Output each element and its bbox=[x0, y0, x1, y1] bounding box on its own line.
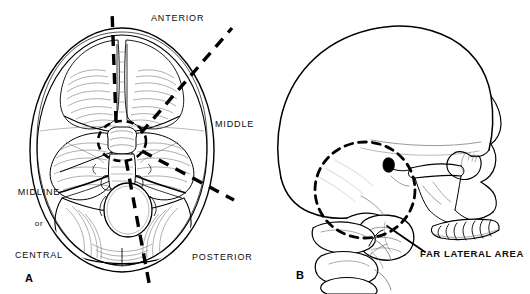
label-middle: MIDDLE bbox=[215, 119, 254, 130]
label-midline-line3: CENTRAL bbox=[7, 250, 71, 261]
dashed-line-anterior-midline bbox=[112, 10, 116, 122]
external-auditory-meatus bbox=[383, 158, 394, 172]
dashed-line-middle-posterior bbox=[142, 151, 234, 200]
label-far-lateral-area: FAR LATERAL AREA bbox=[420, 249, 524, 260]
label-midline-or-central: MIDLINE or CENTRAL bbox=[7, 166, 71, 282]
label-midline-line2: or bbox=[7, 219, 71, 230]
label-midline-line1: MIDLINE bbox=[7, 187, 71, 198]
anatomical-figure: ANTERIOR MIDDLE POSTERIOR MIDLINE or CEN… bbox=[0, 0, 530, 294]
panel-letter-b: B bbox=[296, 269, 304, 281]
label-anterior: ANTERIOR bbox=[151, 13, 204, 24]
panel-letter-a: A bbox=[25, 272, 33, 284]
label-posterior: POSTERIOR bbox=[192, 252, 253, 263]
